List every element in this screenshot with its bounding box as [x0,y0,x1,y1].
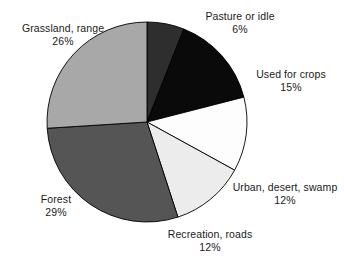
slice-label-pasture-or-idle: Pasture or idle 6% [186,10,294,36]
slice-label-pasture-or-idle-name: Pasture or idle [186,10,294,23]
slice-label-used-for-crops: Used for crops 15% [243,68,339,94]
slice-label-urban-desert-swamp: Urban, desert, swamp 12% [228,181,342,207]
slice-label-forest-percent: 29% [20,206,92,219]
slice-label-recreation-roads-percent: 12% [152,241,268,254]
slice-label-used-for-crops-percent: 15% [243,81,339,94]
slice-label-used-for-crops-name: Used for crops [243,68,339,81]
slice-label-urban-desert-swamp-percent: 12% [228,194,342,207]
slice-label-recreation-roads-name: Recreation, roads [152,228,268,241]
pie-chart-figure: Grassland, range 26% Pasture or idle 6% … [0,0,344,262]
slice-label-forest-name: Forest [20,193,92,206]
slice-label-forest: Forest 29% [20,193,92,219]
slice-label-grassland-range: Grassland, range 26% [8,22,118,48]
slice-label-pasture-or-idle-percent: 6% [186,23,294,36]
slice-label-grassland-range-name: Grassland, range [8,22,118,35]
slice-label-urban-desert-swamp-name: Urban, desert, swamp [228,181,342,194]
slice-label-grassland-range-percent: 26% [8,35,118,48]
pie-slice-group [47,22,247,222]
slice-label-recreation-roads: Recreation, roads 12% [152,228,268,254]
